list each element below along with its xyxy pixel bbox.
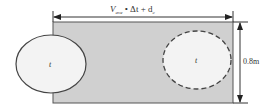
diagram-canvas: Vave • Δt + dc 0.8m t t — [0, 0, 277, 112]
right-dimension-label: 0.8m — [243, 57, 260, 66]
top-dimension-label: Vave • Δt + dc — [110, 4, 155, 15]
